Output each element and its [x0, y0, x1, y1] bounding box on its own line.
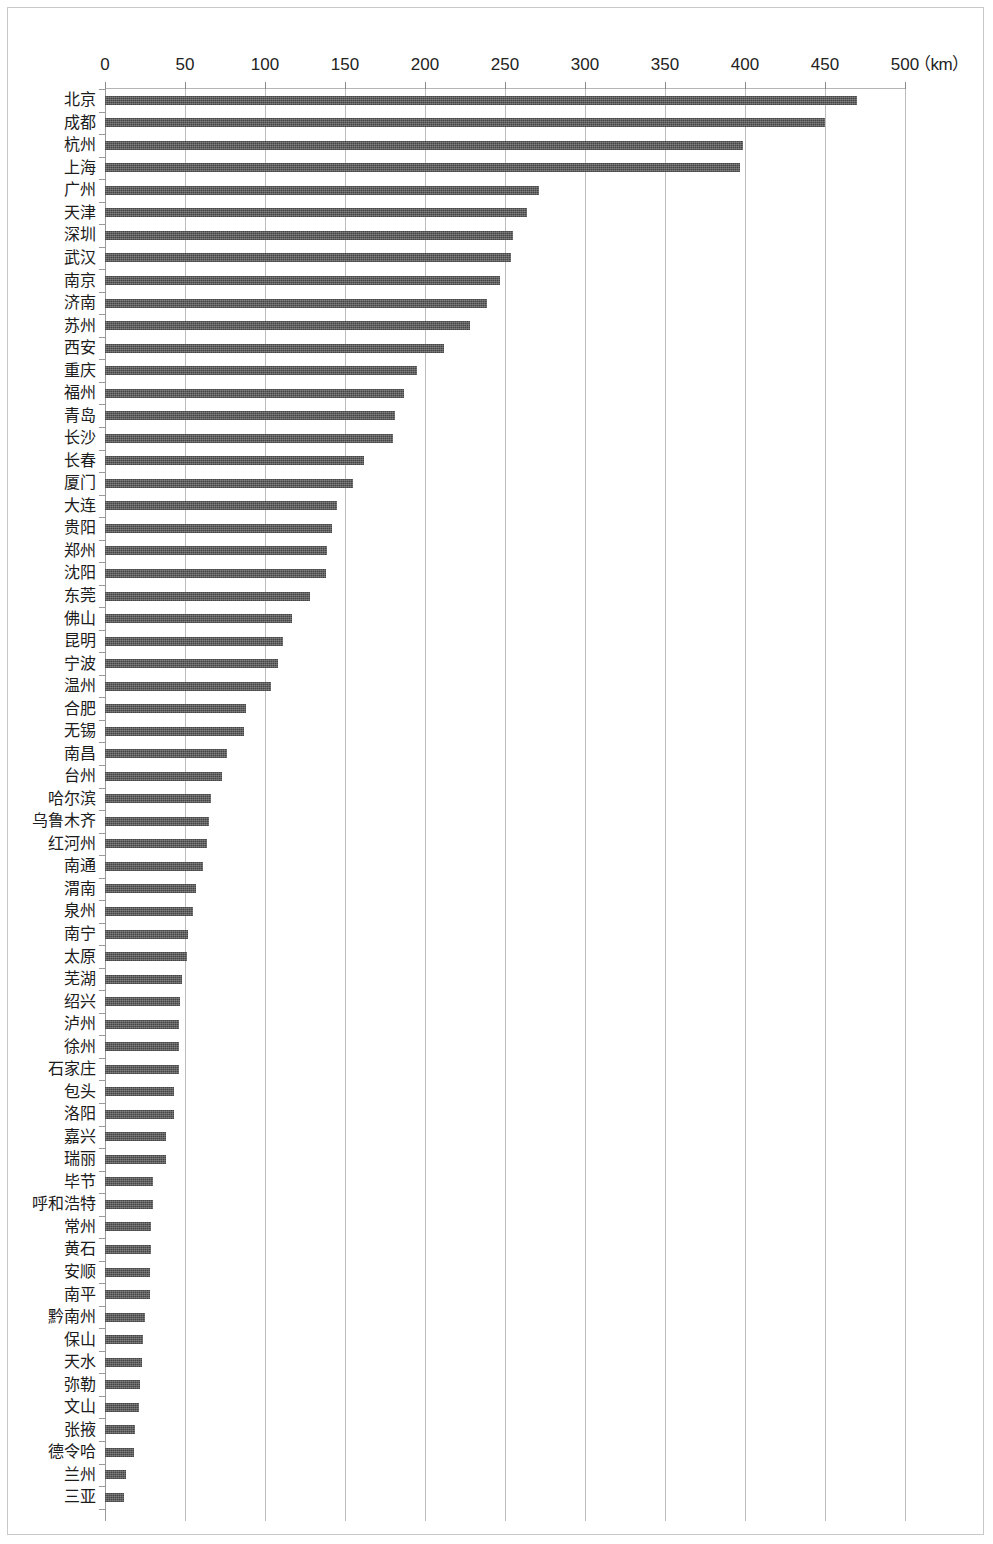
horizontal-bar-chart: 050100150200250300350400450500（km）北京成都杭州…	[0, 0, 993, 1544]
category-label-cell: 宁波	[0, 652, 96, 675]
bar	[105, 299, 487, 308]
y-axis-tick-mark	[99, 562, 105, 563]
bar-row: 昆明	[0, 630, 905, 653]
category-label-cell: 绍兴	[0, 990, 96, 1013]
bar-row: 温州	[0, 675, 905, 698]
bar	[105, 546, 327, 555]
category-label: 泉州	[64, 903, 96, 919]
bar	[105, 231, 513, 240]
y-axis-tick-mark	[99, 765, 105, 766]
bar	[105, 614, 292, 623]
bar-row: 南平	[0, 1283, 905, 1306]
y-axis-tick-mark	[99, 742, 105, 743]
x-axis-tick-mark	[745, 82, 746, 89]
bar	[105, 907, 193, 916]
y-axis-tick-mark	[99, 945, 105, 946]
category-label: 嘉兴	[64, 1129, 96, 1145]
bar-row: 上海	[0, 157, 905, 180]
category-label: 安顺	[64, 1264, 96, 1280]
category-label-cell: 瑞丽	[0, 1148, 96, 1171]
category-label-cell: 德令哈	[0, 1441, 96, 1464]
bar	[105, 1042, 179, 1051]
category-label: 红河州	[48, 836, 96, 852]
category-label: 深圳	[64, 227, 96, 243]
bar-row: 哈尔滨	[0, 788, 905, 811]
category-label-cell: 芜湖	[0, 968, 96, 991]
bar-row: 南宁	[0, 923, 905, 946]
y-axis-tick-mark	[99, 990, 105, 991]
y-axis-tick-mark	[99, 495, 105, 496]
y-axis-tick-mark	[99, 675, 105, 676]
category-label-cell: 东莞	[0, 585, 96, 608]
y-axis-tick-mark	[99, 720, 105, 721]
bar-row: 包头	[0, 1080, 905, 1103]
x-axis-tick-label: 250	[491, 56, 519, 73]
category-label-cell: 黄石	[0, 1238, 96, 1261]
category-label: 渭南	[64, 881, 96, 897]
y-axis-tick-mark	[99, 697, 105, 698]
y-axis-tick-mark	[99, 855, 105, 856]
y-axis-tick-mark	[99, 292, 105, 293]
category-label-cell: 弥勒	[0, 1373, 96, 1396]
y-axis-tick-mark	[99, 337, 105, 338]
category-label: 西安	[64, 340, 96, 356]
category-label-cell: 乌鲁木齐	[0, 810, 96, 833]
bar-row: 南通	[0, 855, 905, 878]
category-label: 黄石	[64, 1241, 96, 1257]
category-label-cell: 红河州	[0, 833, 96, 856]
bar-row: 天水	[0, 1351, 905, 1374]
x-axis-tick-label: 300	[571, 56, 599, 73]
bar	[105, 389, 404, 398]
bar-row: 郑州	[0, 540, 905, 563]
y-axis-tick-mark	[99, 1396, 105, 1397]
category-label: 徐州	[64, 1039, 96, 1055]
y-axis-tick-mark	[99, 1283, 105, 1284]
bar-row: 绍兴	[0, 990, 905, 1013]
y-axis-tick-mark	[99, 314, 105, 315]
bar-row: 德令哈	[0, 1441, 905, 1464]
bar	[105, 862, 203, 871]
bar	[105, 1380, 140, 1389]
category-label-cell: 南宁	[0, 923, 96, 946]
category-label-cell: 沈阳	[0, 562, 96, 585]
y-axis-tick-mark	[99, 1103, 105, 1104]
category-label: 南平	[64, 1287, 96, 1303]
category-label-cell: 张掖	[0, 1418, 96, 1441]
bar	[105, 1290, 150, 1299]
bar-row: 沈阳	[0, 562, 905, 585]
bar	[105, 1222, 151, 1231]
bar-row: 台州	[0, 765, 905, 788]
bar-row: 嘉兴	[0, 1126, 905, 1149]
category-label-cell: 黔南州	[0, 1306, 96, 1329]
category-label-cell: 昆明	[0, 630, 96, 653]
bar	[105, 1313, 145, 1322]
bar-row: 太原	[0, 945, 905, 968]
y-axis-tick-mark	[99, 900, 105, 901]
bar-row: 广州	[0, 179, 905, 202]
category-label-cell: 南京	[0, 269, 96, 292]
category-label: 文山	[64, 1399, 96, 1415]
bar-row: 南京	[0, 269, 905, 292]
category-label-cell: 广州	[0, 179, 96, 202]
category-label: 合肥	[64, 701, 96, 717]
bar	[105, 569, 326, 578]
x-axis-tick-label: 50	[176, 56, 195, 73]
bar	[105, 1177, 153, 1186]
category-label: 重庆	[64, 363, 96, 379]
bar-row: 深圳	[0, 224, 905, 247]
category-label-cell: 徐州	[0, 1035, 96, 1058]
x-axis-tick-label: 100	[251, 56, 279, 73]
category-label-cell: 嘉兴	[0, 1126, 96, 1149]
category-label: 毕节	[64, 1174, 96, 1190]
category-label: 成都	[64, 115, 96, 131]
y-axis-tick-mark	[99, 1441, 105, 1442]
category-label-cell: 长沙	[0, 427, 96, 450]
bar-row: 济南	[0, 292, 905, 315]
category-label: 无锡	[64, 723, 96, 739]
bar-row: 乌鲁木齐	[0, 810, 905, 833]
category-label-cell: 洛阳	[0, 1103, 96, 1126]
bar	[105, 96, 857, 105]
category-label: 昆明	[64, 633, 96, 649]
bar-row: 文山	[0, 1396, 905, 1419]
y-axis-tick-mark	[99, 112, 105, 113]
